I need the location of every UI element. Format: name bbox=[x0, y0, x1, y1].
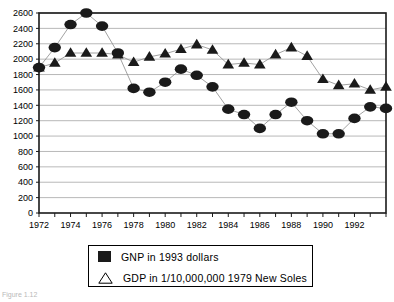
x-tick-label: 1978 bbox=[124, 220, 144, 230]
x-tick-label: 1982 bbox=[187, 220, 207, 230]
data-point-gdp bbox=[222, 59, 234, 69]
data-point-gnp bbox=[348, 114, 360, 124]
data-point-gdp bbox=[380, 81, 392, 91]
data-point-gdp bbox=[286, 42, 298, 52]
chart-figure: 2600240022002000180016001400120010008006… bbox=[0, 0, 394, 302]
data-point-gnp bbox=[159, 77, 171, 87]
data-point-gnp bbox=[175, 64, 187, 74]
data-point-gnp bbox=[317, 129, 329, 139]
data-point-gdp bbox=[128, 56, 140, 66]
x-tick-label: 1986 bbox=[250, 220, 270, 230]
y-tick-label: 600 bbox=[18, 162, 33, 172]
chart-svg: 2600240022002000180016001400120010008006… bbox=[0, 0, 394, 232]
y-tick-label: 200 bbox=[18, 193, 33, 203]
data-point-gnp bbox=[206, 82, 218, 92]
data-point-gdp bbox=[96, 47, 108, 57]
y-tick-label: 1600 bbox=[13, 85, 33, 95]
legend-label-gdp: GDP in 1/10,000,000 1979 New Soles bbox=[123, 272, 307, 284]
y-tick-label: 0 bbox=[28, 208, 33, 218]
legend-label-gnp: GNP in 1993 dollars bbox=[121, 251, 219, 263]
chart-legend: GNP in 1993 dollars GDP in 1/10,000,000 … bbox=[88, 245, 313, 287]
x-tick-label: 1980 bbox=[155, 220, 175, 230]
data-point-gnp bbox=[269, 110, 281, 120]
plot-area: 2600240022002000180016001400120010008006… bbox=[0, 0, 394, 232]
series-line-gnp bbox=[39, 13, 386, 134]
data-point-gnp bbox=[127, 84, 139, 94]
filled-square-icon bbox=[98, 251, 111, 262]
x-tick-label: 1972 bbox=[29, 220, 49, 230]
y-tick-label: 1800 bbox=[13, 70, 33, 80]
data-point-gdp bbox=[301, 50, 313, 60]
y-tick-label: 1000 bbox=[13, 131, 33, 141]
x-tick-label: 1976 bbox=[92, 220, 112, 230]
legend-item-gnp: GNP in 1993 dollars bbox=[89, 246, 312, 267]
x-tick-label: 1992 bbox=[344, 220, 364, 230]
x-tick-label: 1990 bbox=[313, 220, 333, 230]
data-point-gnp bbox=[364, 102, 376, 112]
data-point-gdp bbox=[65, 47, 77, 57]
data-point-gdp bbox=[49, 57, 61, 67]
y-tick-label: 400 bbox=[18, 177, 33, 187]
y-tick-label: 800 bbox=[18, 147, 33, 157]
data-point-gdp bbox=[270, 49, 282, 59]
data-point-gdp bbox=[207, 44, 219, 54]
data-point-gnp bbox=[301, 116, 313, 126]
data-point-gdp bbox=[81, 47, 93, 57]
x-tick-label: 1988 bbox=[281, 220, 301, 230]
data-point-gdp bbox=[238, 57, 250, 67]
y-tick-label: 2600 bbox=[13, 8, 33, 18]
x-tick-label: 1974 bbox=[61, 220, 81, 230]
outline-triangle-icon bbox=[98, 272, 113, 284]
data-point-gdp bbox=[333, 80, 345, 90]
x-tick-label: 1984 bbox=[218, 220, 238, 230]
data-point-gnp bbox=[380, 104, 392, 114]
data-point-gdp bbox=[349, 78, 361, 88]
legend-item-gdp: GDP in 1/10,000,000 1979 New Soles bbox=[89, 267, 312, 288]
data-point-gnp bbox=[96, 21, 108, 31]
y-tick-label: 1200 bbox=[13, 116, 33, 126]
plot-frame bbox=[39, 13, 386, 213]
data-point-gnp bbox=[191, 71, 203, 81]
data-point-gnp bbox=[143, 87, 155, 97]
data-point-gnp bbox=[254, 124, 266, 134]
figure-caption: Figure 1.12 bbox=[2, 291, 37, 298]
data-point-gnp bbox=[332, 129, 344, 139]
y-tick-label: 1400 bbox=[13, 101, 33, 111]
data-point-gnp bbox=[238, 110, 250, 120]
data-point-gdp bbox=[254, 59, 266, 69]
data-point-gnp bbox=[222, 104, 234, 114]
y-tick-label: 2200 bbox=[13, 39, 33, 49]
y-tick-label: 2000 bbox=[13, 54, 33, 64]
data-point-gnp bbox=[49, 43, 61, 53]
y-tick-label: 2400 bbox=[13, 24, 33, 34]
data-point-gnp bbox=[80, 8, 92, 18]
data-point-gnp bbox=[285, 97, 297, 107]
data-point-gnp bbox=[64, 20, 76, 30]
